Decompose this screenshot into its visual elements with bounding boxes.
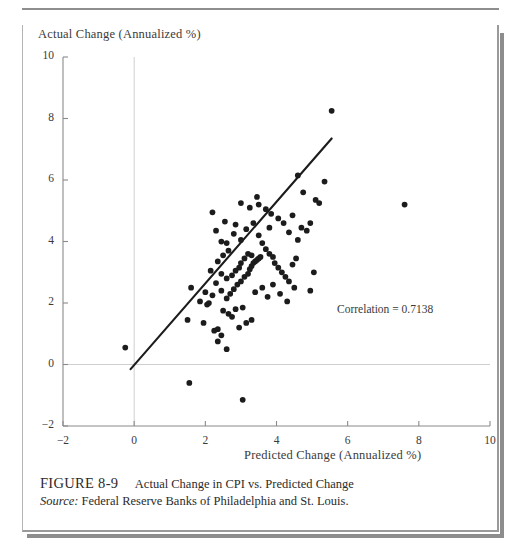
source-label: Source:	[40, 494, 78, 508]
x-axis-title: Predicted Change (Annualized %)	[244, 448, 421, 463]
y-axis-title: Actual Change (Annualized %)	[38, 27, 201, 42]
x-tick-label: −2	[48, 434, 78, 446]
x-tick-label: 4	[262, 434, 292, 446]
y-tick-label: 6	[30, 172, 54, 184]
y-tick-label: 8	[30, 111, 54, 123]
x-tick-label: 2	[190, 434, 220, 446]
figure-title: Actual Change in CPI vs. Predicted Chang…	[135, 477, 354, 491]
figure-page: Actual Change (Annualized %) Predicted C…	[0, 0, 523, 557]
frame-shadow-right	[500, 33, 504, 538]
y-tick-label: −2	[30, 418, 54, 430]
x-tick-label: 6	[333, 434, 363, 446]
correlation-annotation: Correlation = 0.7138	[337, 303, 433, 315]
y-tick-label: 4	[30, 234, 54, 246]
y-tick-label: 2	[30, 295, 54, 307]
frame-shadow-bottom	[27, 534, 504, 538]
figure-number: FIGURE 8-9	[40, 475, 118, 491]
top-horizontal-rule	[22, 8, 499, 10]
y-tick-label: 10	[30, 49, 54, 61]
x-tick-label: 0	[119, 434, 149, 446]
y-tick-label: 0	[30, 357, 54, 369]
x-tick-label: 10	[475, 434, 505, 446]
x-tick-label: 8	[404, 434, 434, 446]
figure-source: Source: Federal Reserve Banks of Philade…	[40, 492, 480, 510]
source-text: Federal Reserve Banks of Philadelphia an…	[82, 494, 349, 508]
figure-caption: FIGURE 8-9 Actual Change in CPI vs. Pred…	[40, 473, 480, 494]
